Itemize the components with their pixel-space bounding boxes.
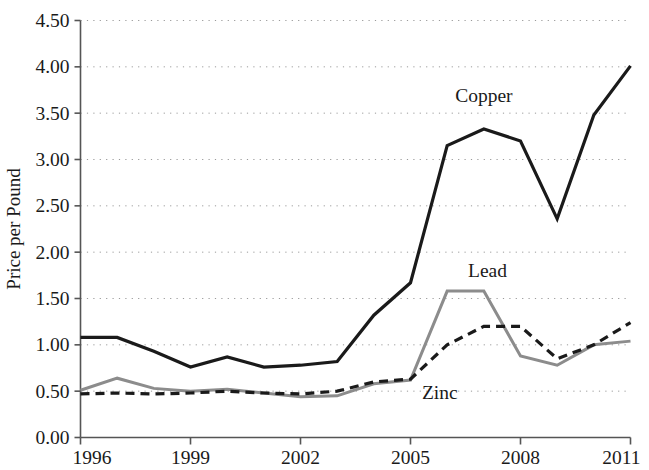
series-line-copper — [81, 66, 631, 367]
x-tick-label-1999: 1999 — [171, 447, 210, 468]
y-tick-label-1.50: 1.50 — [35, 288, 69, 309]
y-tick-label-4.50: 4.50 — [35, 10, 69, 31]
series-label-zinc: Zinc — [422, 382, 458, 403]
x-tick-label-2005: 2005 — [391, 447, 430, 468]
y-tick-label-2.00: 2.00 — [35, 242, 69, 263]
x-axis-ticks-group: 199619992002200520082011 — [73, 438, 641, 468]
axes-group — [81, 21, 631, 438]
chart-canvas: 0.000.501.001.502.002.503.003.504.004.50… — [0, 0, 649, 470]
series-line-lead — [81, 291, 631, 397]
x-tick-label-2011: 2011 — [602, 447, 640, 468]
series-label-copper: Copper — [455, 85, 513, 106]
y-tick-label-3.50: 3.50 — [35, 103, 69, 124]
y-tick-label-0.00: 0.00 — [35, 427, 69, 448]
y-axis-ticks-group: 0.000.501.001.502.002.503.003.504.004.50 — [35, 10, 80, 448]
price-per-pound-line-chart: 0.000.501.001.502.002.503.003.504.004.50… — [0, 0, 649, 470]
x-tick-label-2002: 2002 — [281, 447, 320, 468]
x-tick-label-1996: 1996 — [73, 447, 112, 468]
series-label-lead: Lead — [468, 260, 507, 281]
series-line-zinc — [81, 323, 631, 394]
y-tick-label-4.00: 4.00 — [35, 56, 69, 77]
y-tick-label-3.00: 3.00 — [35, 149, 69, 170]
x-tick-label-2008: 2008 — [501, 447, 540, 468]
y-axis-title: Price per Pound — [3, 168, 24, 290]
y-tick-label-2.50: 2.50 — [35, 195, 69, 216]
series-group — [81, 66, 631, 397]
gridlines-group — [81, 21, 631, 392]
y-tick-label-0.50: 0.50 — [35, 381, 69, 402]
y-tick-label-1.00: 1.00 — [35, 334, 69, 355]
